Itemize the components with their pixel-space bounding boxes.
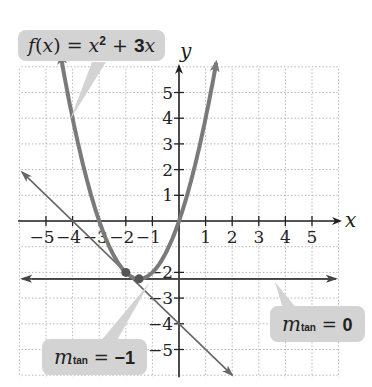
equals-sign: = [316,314,343,335]
x-tick-label: −2 [109,227,134,247]
y-tick-label: −5 [148,340,173,360]
y-tick-label: 4 [162,108,173,128]
slope-zero-label: mtan = 0 [270,306,365,342]
x-tick-label: 1 [200,227,211,247]
callout-pointer-m0 [275,282,297,309]
slanted-tangent-line [22,172,126,272]
y-tick-label: 2 [162,160,173,180]
x-tick-label: −1 [136,227,161,247]
callout-pointer-function [70,62,106,120]
var-x-linear: x [145,34,156,56]
exponent: 2 [99,34,106,48]
slope-symbol: m [282,312,301,336]
function-label: f(x) = x2 + 3x [18,30,165,61]
y-tick-label: −4 [148,314,173,334]
x-tick-label: 3 [253,227,264,247]
slope-subscript: tan [73,355,88,366]
tangent-point [135,274,144,283]
x-tick-label: 5 [307,227,318,247]
y-tick-label: 3 [162,134,173,154]
slope-symbol: m [54,345,73,369]
y-axis-label: y [179,39,192,63]
coefficient: 3 [134,35,145,56]
paren-close: ) [53,34,60,56]
function-name: f [28,34,35,56]
x-tick-label: −5 [29,227,54,247]
slope-neg-one-label: mtan = −1 [42,339,147,375]
var-x: x [42,34,53,56]
slope-value: 0 [343,315,353,335]
x-tick-label: 4 [280,227,291,247]
y-tick-label: 5 [162,83,173,103]
callout-pointer-m1 [100,282,150,342]
equals-sign: = [88,347,115,368]
x-tick-label: −4 [56,227,81,247]
x-tick-label: 2 [227,227,238,247]
slope-value: −1 [115,348,136,368]
tangent-point [121,268,130,277]
y-tick-label: 1 [162,185,173,205]
x-axis-label: x [345,208,356,232]
plus-sign: + [106,34,134,56]
slope-subscript: tan [301,322,316,333]
var-x-squared: x [89,34,100,56]
equals-sign: = [61,34,89,56]
